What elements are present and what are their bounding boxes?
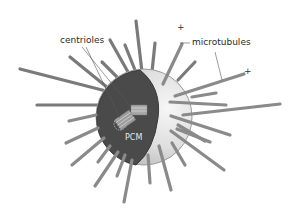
plus-end-marker: + bbox=[244, 66, 252, 76]
pcm-label: PCM bbox=[125, 133, 142, 142]
centrioles-label: centrioles bbox=[60, 35, 104, 45]
plus-end-marker: + bbox=[177, 22, 185, 32]
centrosome-diagram bbox=[0, 0, 295, 214]
microtubules-label: microtubules bbox=[192, 37, 251, 47]
